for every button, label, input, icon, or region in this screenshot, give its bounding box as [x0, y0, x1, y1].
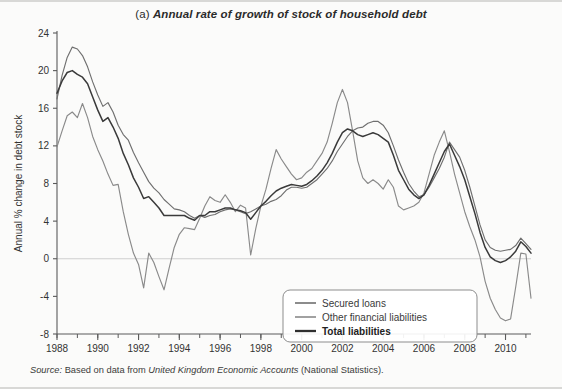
source-publication: United Kingdom Economic Accounts: [148, 365, 298, 375]
legend-label: Total liabilities: [322, 326, 391, 337]
legend-label: Secured loans: [322, 298, 386, 309]
y-tick-label: 4: [43, 216, 49, 227]
x-tick-label: 1994: [168, 343, 191, 354]
x-tick-label: 2000: [291, 343, 314, 354]
x-tick-label: 2006: [413, 343, 436, 354]
y-tick-label: 8: [43, 178, 49, 189]
source-mid: Based on data from: [62, 365, 148, 375]
chart-legend[interactable]: Secured loansOther financial liabilities…: [283, 290, 477, 342]
x-tick-label: 1998: [250, 343, 273, 354]
source-label: Source:: [30, 365, 62, 375]
x-tick-label: 1992: [127, 343, 150, 354]
figure-top-divider: [0, 0, 562, 2]
series-group: [57, 47, 531, 321]
x-tick-label: 2008: [454, 343, 477, 354]
y-tick-label: 12: [38, 140, 50, 151]
y-tick-label: 20: [38, 65, 50, 76]
y-axis-title: Annual % change in debt stock: [13, 114, 24, 252]
y-tick-label: 0: [43, 253, 49, 264]
y-tick-label: -4: [40, 291, 49, 302]
x-tick-label: 2004: [372, 343, 395, 354]
x-tick-label: 1988: [46, 343, 69, 354]
source-suffix: (National Statistics).: [298, 365, 383, 375]
x-tick-label: 1996: [209, 343, 232, 354]
series-line-secured-loans: [57, 47, 531, 251]
legend-label: Other financial liabilities: [322, 312, 427, 323]
x-tick-label: 2002: [331, 343, 354, 354]
figure-panel: (a) Annual rate of growth of stock of ho…: [0, 0, 562, 389]
x-tick-label: 2010: [494, 343, 517, 354]
y-tick-label: -8: [40, 329, 49, 340]
line-chart: 24201612840-4-81988199019921994199619982…: [0, 24, 562, 354]
y-tick-label: 24: [38, 28, 50, 39]
y-tick-label: 16: [38, 103, 50, 114]
plot-area: 24201612840-4-81988199019921994199619982…: [0, 24, 562, 354]
chart-title-text: Annual rate of growth of stock of househ…: [153, 8, 427, 20]
y-axis-title-group: Annual % change in debt stock: [13, 114, 24, 252]
panel-label: (a): [135, 8, 149, 20]
x-tick-label: 1990: [87, 343, 110, 354]
source-note: Source: Based on data from United Kingdo…: [30, 365, 384, 375]
series-line-other-financial-liabilities: [57, 89, 531, 320]
page-title: (a) Annual rate of growth of stock of ho…: [0, 8, 562, 20]
